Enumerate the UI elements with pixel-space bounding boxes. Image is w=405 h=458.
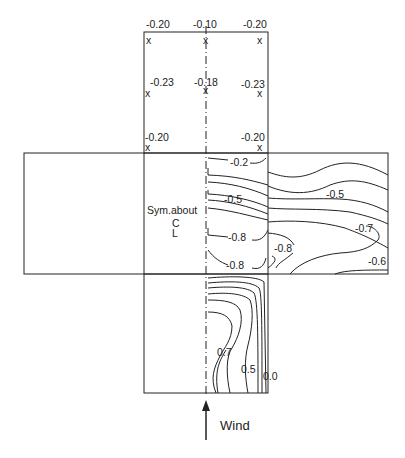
symmetry-note: Sym.about C L bbox=[147, 204, 197, 239]
contour-label: -0.2 bbox=[230, 156, 248, 168]
x-marker: x bbox=[257, 34, 263, 46]
wind-arrow: Wind bbox=[202, 400, 250, 440]
x-marker: x bbox=[146, 34, 152, 46]
x-marker: x bbox=[203, 34, 209, 46]
x-marker: x bbox=[145, 87, 151, 99]
arrow-head-icon bbox=[202, 400, 210, 411]
contour-label: 0.0 bbox=[263, 370, 278, 382]
bottom-contours bbox=[208, 277, 266, 393]
sym-text: Sym.about bbox=[147, 204, 197, 216]
pressure-contour-diagram: -0.20 -0.10 -0.20 x x x -0.23 -0.18 -0.2… bbox=[0, 0, 405, 458]
contour-label: -0.8 bbox=[274, 242, 292, 254]
point-label: -0.23 bbox=[150, 76, 174, 88]
x-marker: x bbox=[203, 84, 209, 96]
point-label: -0.20 bbox=[146, 18, 170, 30]
contour-label: 0.7 bbox=[217, 346, 232, 358]
contour-label: -0.5 bbox=[326, 188, 344, 200]
bottom-labels: 0.7 0.5 0.0 bbox=[217, 346, 278, 382]
point-label: -0.20 bbox=[243, 18, 267, 30]
middle-center-labels: -0.2 -0.5 -0.8 -0.8 bbox=[224, 156, 248, 271]
middle-center-contours bbox=[208, 158, 268, 269]
contour-label: -0.6 bbox=[368, 255, 386, 267]
sym-l: L bbox=[172, 227, 178, 239]
contour-label: -0.7 bbox=[355, 222, 373, 234]
x-marker: x bbox=[257, 87, 263, 99]
contour-label: -0.8 bbox=[226, 259, 244, 271]
wind-label: Wind bbox=[220, 418, 250, 433]
contour-label: 0.5 bbox=[241, 363, 256, 375]
contour-label: -0.5 bbox=[224, 193, 242, 205]
point-label: -0.10 bbox=[193, 18, 217, 30]
contour-label: -0.8 bbox=[228, 231, 246, 243]
x-marker: x bbox=[145, 141, 151, 153]
x-marker: x bbox=[257, 141, 263, 153]
